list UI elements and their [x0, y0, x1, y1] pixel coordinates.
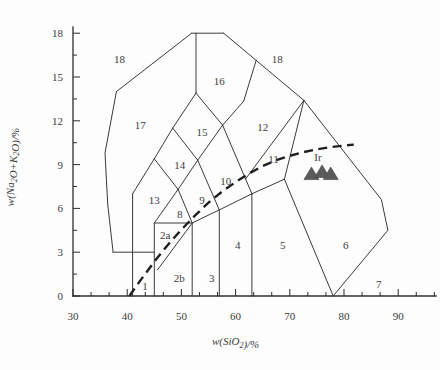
boundary-top-of-5: [252, 179, 285, 194]
x-tick-label: 30: [68, 310, 80, 322]
field-label-13: 13: [149, 194, 161, 206]
field-label-7: 7: [376, 278, 382, 290]
boundary-b-11-6: [284, 100, 304, 179]
field-label-11: 11: [268, 153, 279, 165]
boundary-roof-left: [116, 33, 191, 91]
boundary-b-13-top: [133, 159, 155, 194]
y-tick-label: 9: [58, 159, 64, 171]
field-label-1: 1: [142, 280, 148, 292]
irvine-line: [129, 145, 353, 296]
boundary-d15-ur: [196, 93, 223, 125]
field-label-14: 14: [174, 159, 186, 171]
y-axis-title: w(Na2O+K2O)/%: [4, 128, 22, 206]
boundary-left-edge-17: [105, 92, 116, 253]
field-label-12: 12: [257, 121, 268, 133]
boundary-roof-right: [224, 33, 304, 100]
y-tick-label: 15: [52, 71, 64, 83]
boundary-divider-11-12: [245, 100, 304, 179]
boundary-d14-ul: [154, 128, 172, 159]
field-label-3: 3: [209, 272, 215, 284]
field-label-6: 6: [343, 239, 349, 251]
boundary-right-edge-6: [304, 100, 388, 296]
field-label-17: 17: [135, 119, 147, 131]
field-label-2a: 2a: [160, 229, 171, 241]
y-tick-label: 12: [52, 115, 63, 127]
x-tick-label: 90: [393, 310, 405, 322]
field-label-2b: 2b: [174, 272, 186, 284]
boundary-b-5-6: [284, 179, 333, 296]
x-tick-label: 50: [176, 310, 188, 322]
tas-diagram-canvas: 304050607080900369121518w(SiO2)/%w(Na2O+…: [0, 0, 440, 370]
field-label-18: 18: [272, 53, 284, 65]
x-tick-label: 70: [284, 310, 296, 322]
field-label-10: 10: [220, 175, 232, 187]
irvine-line-label: Ir: [314, 151, 322, 163]
field-label-5: 5: [280, 239, 286, 251]
boundary-b-52-57: [192, 210, 219, 223]
y-tick-label: 6: [58, 202, 64, 214]
field-label-18: 18: [114, 53, 126, 65]
x-tick-label: 80: [339, 310, 351, 322]
x-tick-label: 60: [230, 310, 242, 322]
y-tick-label: 3: [58, 246, 64, 258]
field-label-4: 4: [235, 239, 241, 251]
field-label-9: 9: [199, 194, 205, 206]
y-tick-label: 18: [52, 27, 64, 39]
x-axis-title: w(SiO2)/%: [212, 335, 259, 351]
field-label-8: 8: [177, 208, 183, 220]
field-label-16: 16: [214, 75, 226, 87]
field-label-15: 15: [196, 126, 208, 138]
boundary-d15-ul: [173, 93, 196, 128]
x-tick-label: 40: [122, 310, 134, 322]
boundary-d14-ur: [173, 128, 198, 160]
tas-diagram-figure: 304050607080900369121518w(SiO2)/%w(Na2O+…: [0, 0, 440, 370]
y-tick-label: 0: [58, 290, 64, 302]
boundary-b-57-63: [219, 194, 252, 210]
boundary-b-16-12: [223, 60, 257, 125]
